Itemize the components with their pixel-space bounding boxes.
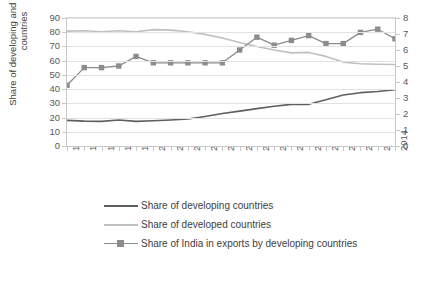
- y-axis-left-tick-label: 50: [36, 70, 60, 80]
- data-point-marker: [375, 27, 380, 32]
- y-axis-right-tick-label: 4: [403, 77, 423, 87]
- y-axis-left-tick-label: 80: [36, 27, 60, 37]
- legend-line-swatch: [104, 205, 138, 207]
- series-line-2: [67, 29, 395, 85]
- y-axis-title-container: Share of developing and developed countr…: [0, 0, 28, 165]
- y-axis-title: Share of developing and developed countr…: [7, 0, 29, 111]
- y-axis-left-tick-label: 60: [36, 56, 60, 66]
- data-point-marker: [392, 36, 395, 41]
- y-axis-right-tick-mark: [396, 114, 400, 115]
- chart-figure: Share of developing and developed countr…: [0, 0, 447, 282]
- data-point-marker: [82, 65, 87, 70]
- x-axis-tick-mark: [205, 147, 206, 151]
- legend-marker-swatch: [117, 240, 124, 247]
- legend-item[interactable]: Share of India in exports by developing …: [104, 234, 357, 253]
- x-axis-tick-mark: [378, 147, 379, 151]
- y-axis-right-tick-mark: [396, 34, 400, 35]
- x-axis-tick-mark: [84, 147, 85, 151]
- legend-item[interactable]: Share of developing countries: [104, 196, 357, 215]
- y-axis-left-tick-label: 90: [36, 13, 60, 23]
- y-axis-right-tick-label: 2: [403, 109, 423, 119]
- y-axis-right-tick-mark: [396, 82, 400, 83]
- x-axis-tick-mark: [136, 147, 137, 151]
- legend-item-label: Share of India in exports by developing …: [141, 238, 357, 250]
- data-point-marker: [306, 33, 311, 38]
- legend-key-icon: [104, 238, 138, 250]
- y-axis-left-tick-label: 70: [36, 41, 60, 51]
- legend-item-label: Share of developing countries: [141, 200, 273, 212]
- legend-item-label: Share of developed countries: [141, 219, 271, 231]
- data-point-marker: [116, 63, 121, 68]
- chart-legend: Share of developing countriesShare of de…: [104, 196, 357, 253]
- y-axis-left-tick-label: 0: [36, 141, 60, 151]
- data-point-marker: [67, 83, 70, 88]
- chart-svg: [67, 18, 395, 146]
- gridline: [67, 75, 395, 76]
- data-point-marker: [133, 54, 138, 59]
- x-axis-tick-mark: [67, 147, 68, 151]
- x-axis-tick-mark: [395, 147, 396, 151]
- data-point-marker: [99, 65, 104, 70]
- x-axis-tick-mark: [274, 147, 275, 151]
- legend-item[interactable]: Share of developed countries: [104, 215, 357, 234]
- x-axis-tick-mark: [222, 147, 223, 151]
- x-axis-tick-mark: [119, 147, 120, 151]
- gridline: [67, 132, 395, 133]
- y-axis-right-tick-label: 6: [403, 45, 423, 55]
- x-axis-tick-mark: [171, 147, 172, 151]
- plot-area: [66, 17, 396, 147]
- y-axis-right-tick-label: 7: [403, 29, 423, 39]
- y-axis-right-tick-mark: [396, 18, 400, 19]
- gridline: [67, 32, 395, 33]
- gridline: [67, 103, 395, 104]
- data-point-marker: [254, 35, 259, 40]
- y-axis-right-tick-mark: [396, 66, 400, 67]
- y-axis-left-tick-label: 10: [36, 127, 60, 137]
- gridline: [67, 118, 395, 119]
- x-axis-tick-mark: [240, 147, 241, 151]
- y-axis-right-tick-mark: [396, 50, 400, 51]
- data-point-marker: [289, 38, 294, 43]
- x-axis-tick-mark: [326, 147, 327, 151]
- y-axis-right-tick-label: 3: [403, 93, 423, 103]
- x-axis-tick-mark: [291, 147, 292, 151]
- x-axis-tick-mark: [102, 147, 103, 151]
- x-axis-tick-mark: [257, 147, 258, 151]
- data-point-marker: [237, 47, 242, 52]
- y-axis-right-tick-mark: [396, 98, 400, 99]
- x-axis-tick-mark: [360, 147, 361, 151]
- gridline: [67, 61, 395, 62]
- legend-key-icon: [104, 200, 138, 212]
- x-axis-tick-mark: [153, 147, 154, 151]
- x-axis-tick-mark: [188, 147, 189, 151]
- y-axis-right-tick-label: 5: [403, 61, 423, 71]
- y-axis-left-tick-label: 20: [36, 113, 60, 123]
- gridline: [67, 46, 395, 47]
- x-axis-tick-mark: [309, 147, 310, 151]
- x-axis-tick-label: 2014: [399, 130, 409, 151]
- gridline: [67, 89, 395, 90]
- y-axis-left-tick-label: 30: [36, 98, 60, 108]
- legend-line-swatch: [104, 224, 138, 226]
- gridline: [67, 18, 395, 19]
- legend-key-icon: [104, 219, 138, 231]
- y-axis-left-tick-label: 40: [36, 84, 60, 94]
- x-axis-tick-mark: [343, 147, 344, 151]
- y-axis-right-tick-label: 8: [403, 13, 423, 23]
